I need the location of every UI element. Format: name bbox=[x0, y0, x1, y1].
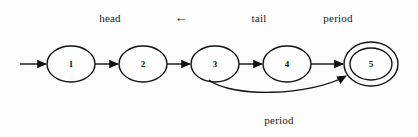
label-tail: tail bbox=[252, 12, 267, 24]
diagram-canvas: 1 2 3 4 5 head ← tail period period bbox=[0, 0, 418, 137]
state-node-3-label: 3 bbox=[213, 59, 218, 69]
state-node-2-label: 2 bbox=[141, 59, 146, 69]
label-head: head bbox=[99, 12, 121, 24]
state-node-5-label: 5 bbox=[369, 59, 374, 69]
label-period-top: period bbox=[323, 12, 352, 24]
diagram-svg: 1 2 3 4 5 bbox=[0, 0, 418, 137]
left-arrow-icon: ← bbox=[174, 10, 187, 26]
state-node-1-label: 1 bbox=[69, 59, 74, 69]
label-period-bottom: period bbox=[264, 114, 293, 126]
state-node-4-label: 4 bbox=[285, 59, 290, 69]
